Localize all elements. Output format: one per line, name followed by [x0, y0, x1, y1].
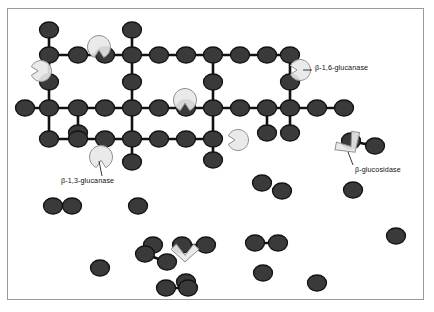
glucose-unit: [387, 228, 406, 244]
glucose-unit: [308, 100, 327, 116]
glucose-unit: [258, 47, 277, 63]
glucose-unit: [123, 131, 142, 147]
glucose-unit: [16, 100, 35, 116]
glucose-unit: [63, 198, 82, 214]
glucose-unit: [69, 100, 88, 116]
glucose-unit: [366, 138, 385, 154]
glucose-unit: [123, 74, 142, 90]
glucose-unit: [269, 235, 288, 251]
leader-line-beta-1-3-glucanase: [99, 161, 102, 176]
glucose-unit: [40, 131, 59, 147]
glucose-unit: [177, 47, 196, 63]
glucose-unit: [335, 100, 354, 116]
glucose-unit: [40, 100, 59, 116]
glucose-unit: [136, 246, 155, 262]
enzyme-glucanase-lower-right: [228, 130, 248, 151]
glucose-unit: [69, 47, 88, 63]
glucose-unit: [177, 131, 196, 147]
glucose-unit: [157, 280, 176, 296]
glucose-unit: [204, 100, 223, 116]
glucose-unit: [150, 47, 169, 63]
glucose-unit: [231, 47, 250, 63]
glucose-unit: [44, 198, 63, 214]
diagram-canvas: [0, 0, 434, 312]
glucose-unit: [150, 131, 169, 147]
glucose-unit: [123, 47, 142, 63]
glucose-unit: [91, 260, 110, 276]
glucose-unit: [204, 131, 223, 147]
glucose-unit: [197, 237, 216, 253]
figure-container: β-1,6-glucanase β-1,3-glucanase β-glucos…: [0, 0, 434, 312]
label-beta-1-3-glucanase: β-1,3-glucanase: [61, 177, 114, 184]
glucose-unit: [179, 280, 198, 296]
leader-line-beta-glucosidase: [348, 152, 353, 165]
glucose-unit: [96, 131, 115, 147]
glucose-unit: [204, 74, 223, 90]
glucose-unit: [281, 100, 300, 116]
label-beta-glucosidase: β-glucosidase: [355, 166, 401, 173]
glucose-unit: [96, 100, 115, 116]
enzyme-glucanase-left-edge: [31, 61, 51, 82]
glucose-unit: [246, 235, 265, 251]
glucose-unit: [231, 100, 250, 116]
glucose-unit: [69, 131, 88, 147]
enzyme-glucanase-bottom-left: [90, 145, 113, 167]
glucose-unit: [273, 183, 292, 199]
glucose-unit: [258, 100, 277, 116]
glucose-unit: [254, 265, 273, 281]
glucose-unit: [308, 275, 327, 291]
glucose-unit: [253, 175, 272, 191]
glucose-unit: [129, 198, 148, 214]
glucose-unit: [150, 100, 169, 116]
glucose-unit: [123, 154, 142, 170]
glucose-unit: [204, 47, 223, 63]
label-beta-1-6-glucanase: β-1,6-glucanase: [315, 64, 368, 71]
glucose-unit: [123, 100, 142, 116]
glucose-unit: [158, 254, 177, 270]
glucose-unit: [123, 22, 142, 38]
glucose-unit: [281, 125, 300, 141]
glucose-unit: [40, 22, 59, 38]
glucose-unit: [258, 125, 277, 141]
glucose-unit: [204, 152, 223, 168]
glucose-unit: [344, 182, 363, 198]
